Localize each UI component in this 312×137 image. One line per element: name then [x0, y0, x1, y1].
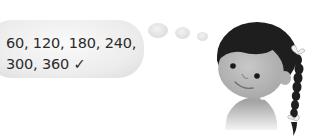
checkmark-icon: ✓ — [73, 56, 85, 72]
thought-bubble-text: 60, 120, 180, 240, 300, 360 ✓ — [6, 33, 146, 75]
number-line-2: 300, 360 ✓ — [6, 54, 146, 75]
thought-dot-large — [148, 23, 168, 38]
number-line-1: 60, 120, 180, 240, — [6, 33, 146, 54]
girl-illustration — [205, 18, 312, 137]
thought-dot-medium — [175, 27, 190, 39]
